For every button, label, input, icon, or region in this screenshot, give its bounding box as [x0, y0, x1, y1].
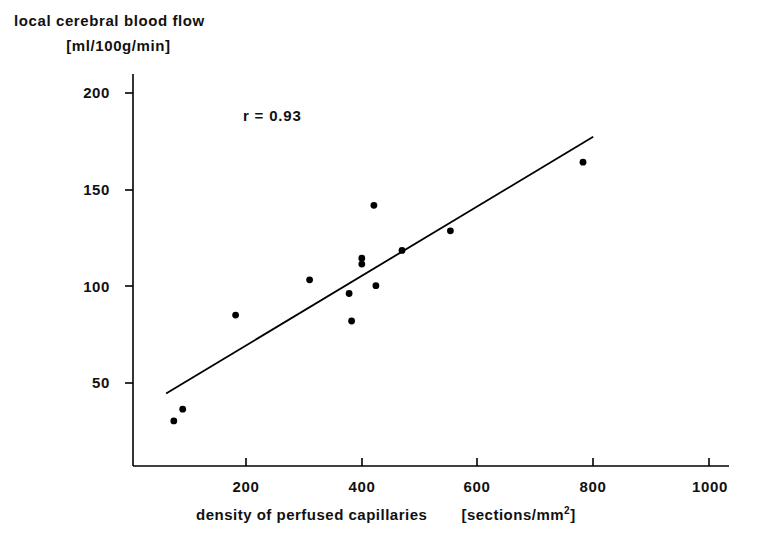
- data-point: [358, 255, 365, 262]
- data-point: [179, 406, 186, 413]
- data-point: [346, 290, 353, 297]
- data-point: [232, 312, 239, 319]
- plot-canvas: [0, 0, 757, 541]
- scatter-chart-figure: local cerebral blood flow [ml/100g/min] …: [0, 0, 757, 541]
- data-point: [447, 227, 454, 234]
- data-point: [170, 418, 177, 425]
- regression-line: [166, 137, 593, 394]
- data-point: [580, 159, 587, 166]
- data-point: [399, 247, 406, 254]
- data-point: [348, 318, 355, 325]
- data-point: [358, 261, 365, 268]
- data-point: [306, 276, 313, 283]
- data-point-group: [170, 159, 586, 425]
- data-point: [373, 282, 380, 289]
- data-point: [371, 202, 378, 209]
